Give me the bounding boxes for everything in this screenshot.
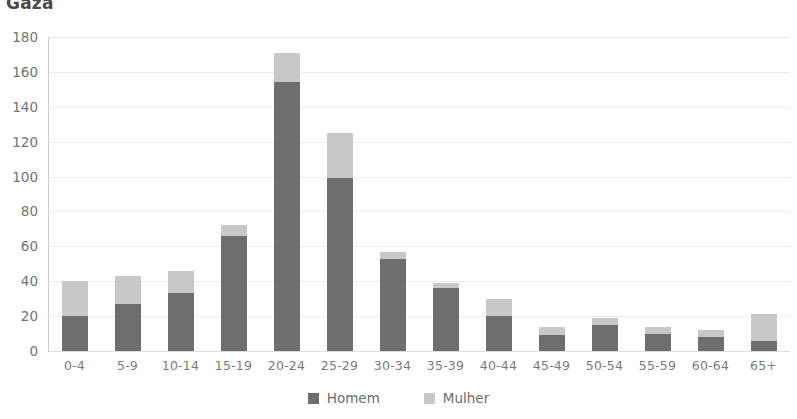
x-axis-labels: 0-45-910-1415-1920-2425-2930-3435-3940-4…	[48, 358, 790, 380]
legend-item[interactable]: Homem	[308, 390, 380, 406]
bar-group[interactable]	[539, 37, 565, 351]
bar-group[interactable]	[592, 37, 618, 351]
bar-segment-homem[interactable]	[698, 337, 724, 351]
bar-group[interactable]	[274, 37, 300, 351]
bar-group[interactable]	[433, 37, 459, 351]
bar-segment-homem[interactable]	[327, 178, 353, 351]
bar-segment-homem[interactable]	[62, 316, 88, 351]
bar-segment-mulher[interactable]	[486, 299, 512, 316]
legend-label: Mulher	[443, 390, 489, 406]
bar-stack	[592, 318, 618, 351]
legend-item[interactable]: Mulher	[424, 390, 489, 406]
bar-stack	[62, 281, 88, 351]
y-axis-tick-label: 0	[29, 343, 38, 359]
bar-stack	[168, 271, 194, 351]
y-axis-tick-label: 80	[21, 203, 38, 219]
bar-stack	[698, 330, 724, 351]
bar-stack	[433, 283, 459, 351]
y-axis-tick-label: 180	[12, 29, 38, 45]
x-axis-tick-label: 45-49	[533, 358, 570, 373]
legend-swatch-icon	[308, 393, 319, 404]
bar-segment-homem[interactable]	[751, 341, 777, 351]
bar-segment-mulher[interactable]	[221, 225, 247, 235]
bar-segment-homem[interactable]	[486, 316, 512, 351]
bar-segment-mulher[interactable]	[592, 318, 618, 325]
bar-stack	[221, 225, 247, 351]
bar-segment-mulher[interactable]	[380, 252, 406, 259]
y-axis-tick-label: 20	[21, 308, 38, 324]
bar-group[interactable]	[380, 37, 406, 351]
bar-stack	[274, 53, 300, 351]
legend-swatch-icon	[424, 393, 435, 404]
x-axis-tick-label: 0-4	[64, 358, 85, 373]
bar-group[interactable]	[221, 37, 247, 351]
bar-stack	[380, 252, 406, 351]
bar-segment-homem[interactable]	[433, 288, 459, 351]
chart-title: Gaza	[6, 0, 54, 13]
y-axis-tick-label: 160	[12, 64, 38, 80]
bar-group[interactable]	[168, 37, 194, 351]
bar-segment-mulher[interactable]	[327, 133, 353, 178]
x-axis-tick-label: 60-64	[692, 358, 729, 373]
bar-group[interactable]	[486, 37, 512, 351]
bar-group[interactable]	[698, 37, 724, 351]
x-axis-tick-label: 40-44	[480, 358, 517, 373]
chart-legend: HomemMulher	[0, 390, 797, 406]
legend-label: Homem	[327, 390, 380, 406]
bar-segment-mulher[interactable]	[274, 53, 300, 83]
bar-segment-mulher[interactable]	[115, 276, 141, 304]
bar-segment-homem[interactable]	[168, 293, 194, 351]
chart-container: Gaza 180160140120100806040200 0-45-910-1…	[0, 0, 797, 419]
bar-stack	[645, 327, 671, 351]
x-axis-tick-label: 30-34	[374, 358, 411, 373]
bar-group[interactable]	[327, 37, 353, 351]
bar-segment-homem[interactable]	[645, 334, 671, 351]
bar-segment-mulher[interactable]	[698, 330, 724, 337]
bar-segment-homem[interactable]	[380, 259, 406, 351]
bar-segment-mulher[interactable]	[168, 271, 194, 294]
x-axis-tick-label: 10-14	[162, 358, 199, 373]
bar-stack	[327, 133, 353, 351]
bar-segment-homem[interactable]	[115, 304, 141, 351]
gridline	[48, 351, 790, 352]
bar-group[interactable]	[115, 37, 141, 351]
y-axis-tick-label: 120	[12, 134, 38, 150]
y-axis-tick-label: 140	[12, 99, 38, 115]
x-axis-tick-label: 25-29	[321, 358, 358, 373]
bar-segment-homem[interactable]	[592, 325, 618, 351]
x-axis-tick-label: 35-39	[427, 358, 464, 373]
x-axis-tick-label: 15-19	[215, 358, 252, 373]
y-axis-tick-label: 60	[21, 238, 38, 254]
y-axis-labels: 180160140120100806040200	[0, 37, 38, 351]
bar-segment-homem[interactable]	[221, 236, 247, 351]
bar-segment-mulher[interactable]	[539, 327, 565, 336]
bar-stack	[115, 276, 141, 351]
bar-segment-mulher[interactable]	[645, 327, 671, 334]
bar-group[interactable]	[645, 37, 671, 351]
bar-segment-mulher[interactable]	[62, 281, 88, 316]
y-axis-tick-label: 100	[12, 169, 38, 185]
bar-group[interactable]	[751, 37, 777, 351]
x-axis-tick-label: 20-24	[268, 358, 305, 373]
bar-segment-homem[interactable]	[274, 82, 300, 351]
x-axis-tick-label: 50-54	[586, 358, 623, 373]
bar-segment-homem[interactable]	[539, 335, 565, 351]
bars-layer	[48, 37, 790, 351]
x-axis-tick-label: 5-9	[117, 358, 138, 373]
bar-group[interactable]	[62, 37, 88, 351]
bar-stack	[751, 314, 777, 351]
bar-stack	[539, 327, 565, 351]
x-axis-tick-label: 65+	[750, 358, 777, 373]
x-axis-tick-label: 55-59	[639, 358, 676, 373]
y-axis-tick-label: 40	[21, 273, 38, 289]
bar-segment-mulher[interactable]	[751, 314, 777, 340]
bar-stack	[486, 299, 512, 351]
